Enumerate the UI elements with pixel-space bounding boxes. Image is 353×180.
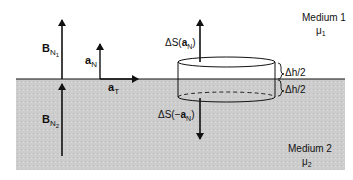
label-ds-up: ΔS(aN) — [165, 37, 196, 50]
label-mu-1: μ1 — [316, 25, 326, 37]
label-dh-upper: Δh/2 — [285, 67, 306, 78]
label-medium-1: Medium 1 — [302, 12, 346, 23]
upper-brace — [278, 63, 284, 79]
pillbox-cylinder — [178, 57, 275, 102]
diagram-canvas: BN1 BN2 aN aT ΔS(aN) ΔS(−aN) Δh/2 Δh/2 M… — [0, 0, 353, 180]
label-medium-2: Medium 2 — [288, 143, 332, 154]
label-b-n1: BN1 — [42, 42, 60, 58]
label-a-n: aN — [85, 54, 97, 69]
label-dh-lower: Δh/2 — [285, 84, 306, 95]
